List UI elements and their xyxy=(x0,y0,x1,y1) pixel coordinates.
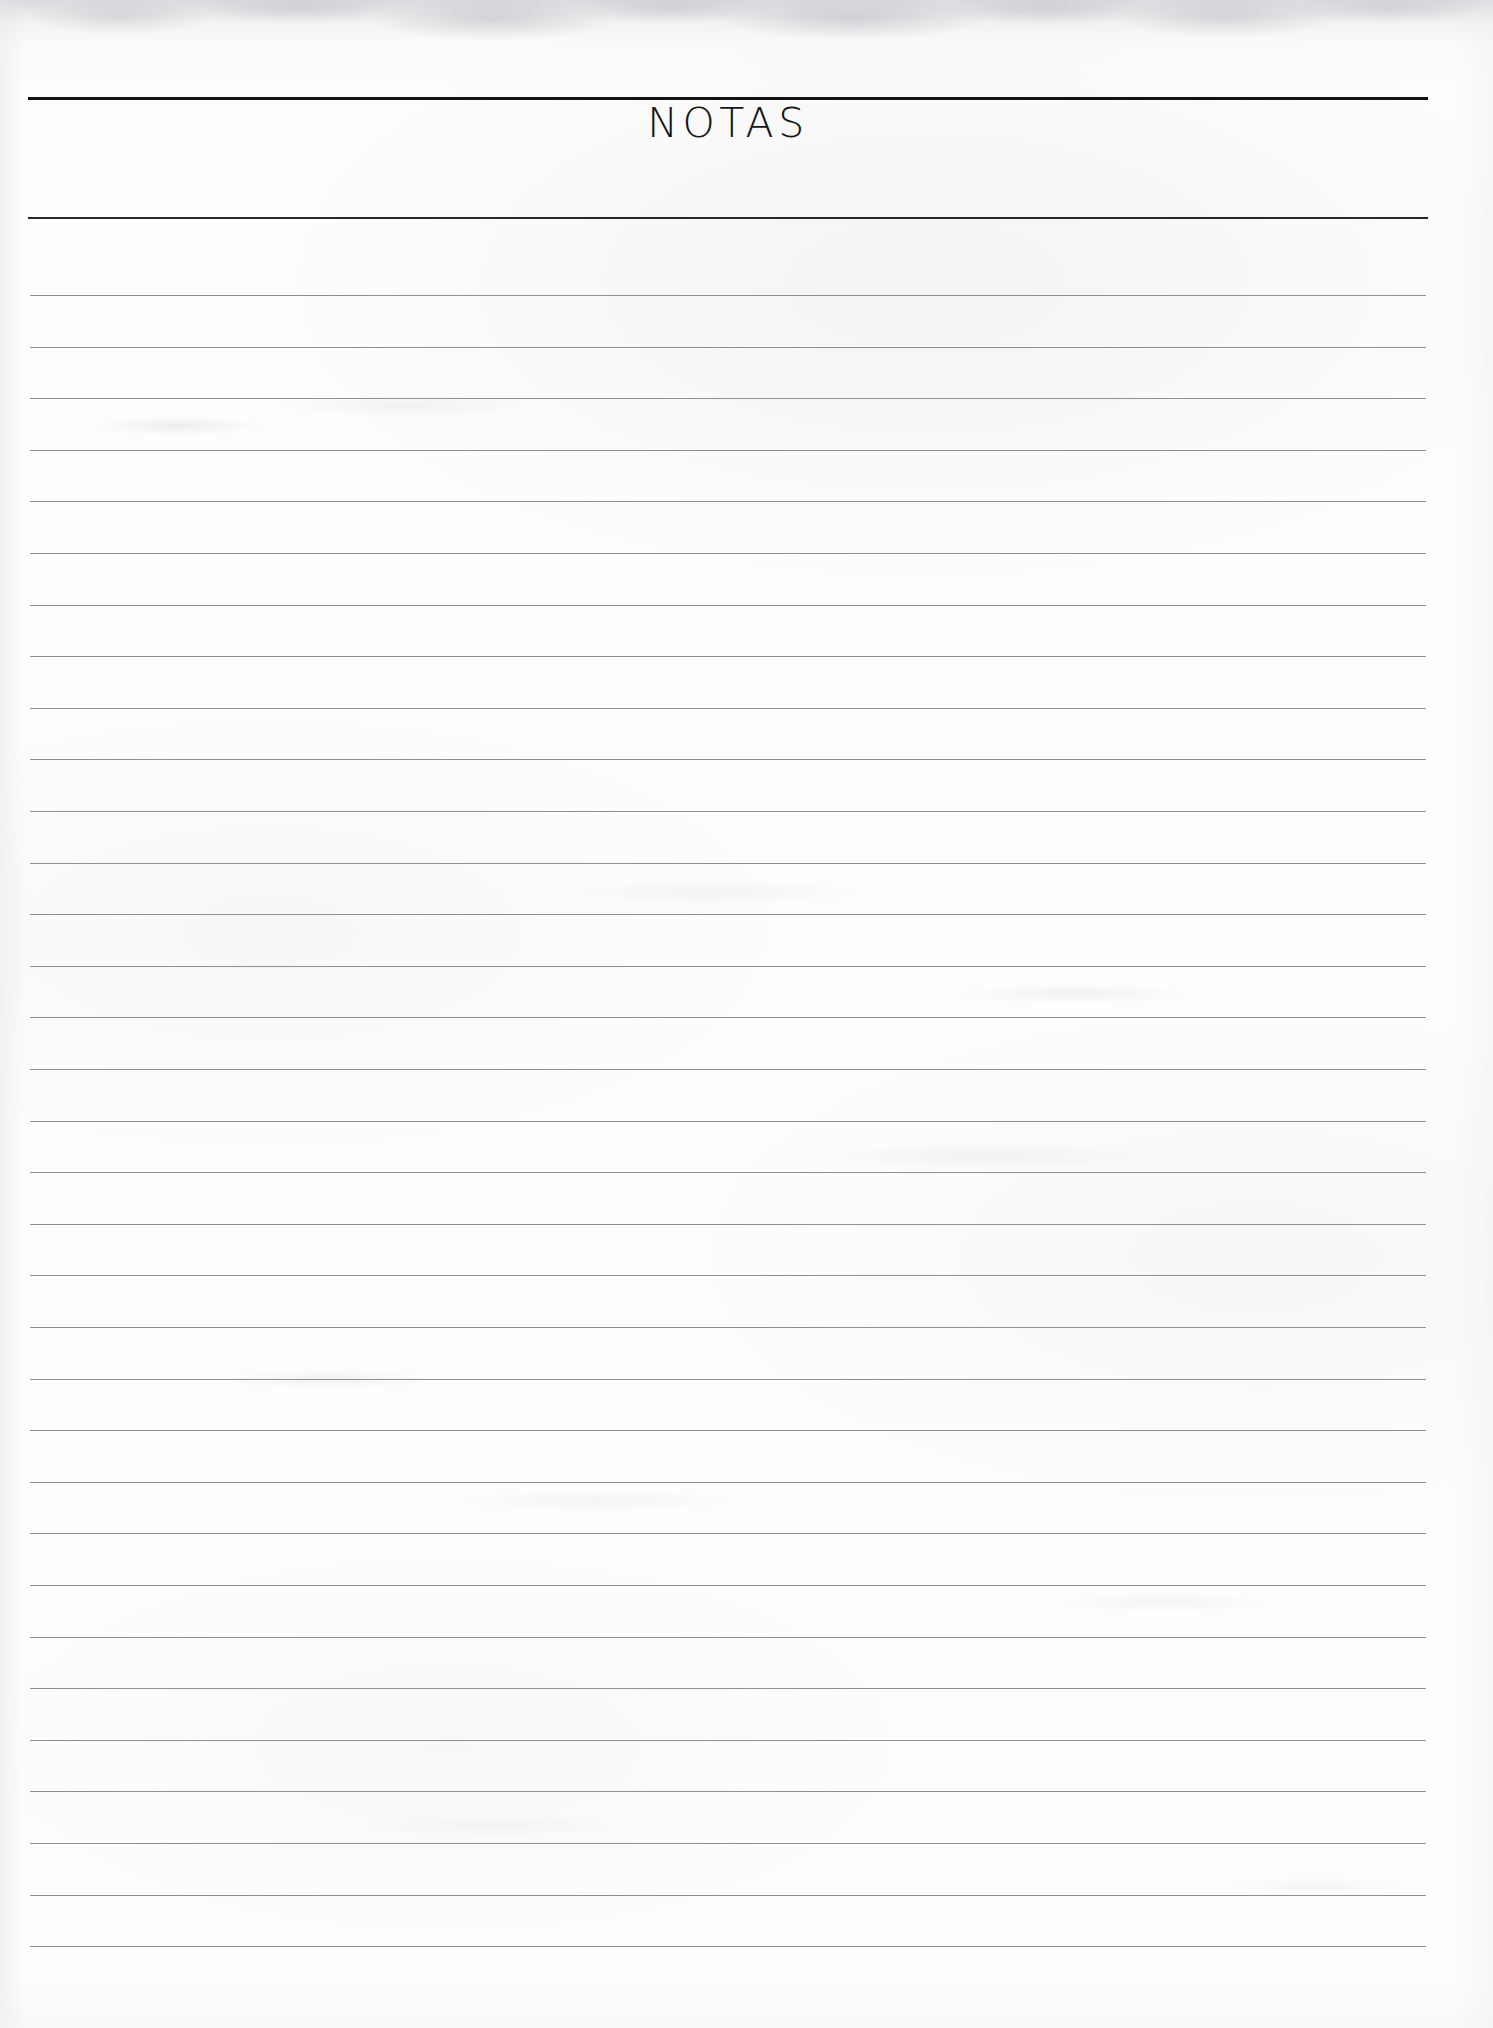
note-rule-line[interactable] xyxy=(30,1121,1426,1122)
note-rule-line[interactable] xyxy=(30,501,1426,502)
note-rule-line[interactable] xyxy=(30,1740,1426,1741)
note-rule-line[interactable] xyxy=(30,347,1426,348)
ruled-lines-area[interactable] xyxy=(0,0,1493,2028)
note-rule-line[interactable] xyxy=(30,1482,1426,1483)
note-rule-line[interactable] xyxy=(30,1069,1426,1070)
note-rule-line[interactable] xyxy=(30,1688,1426,1689)
note-rule-line[interactable] xyxy=(30,398,1426,399)
note-rule-line[interactable] xyxy=(30,1327,1426,1328)
note-rule-line[interactable] xyxy=(30,1379,1426,1380)
note-rule-line[interactable] xyxy=(30,1791,1426,1792)
page-title: NOTAS xyxy=(28,103,1428,144)
note-rule-line[interactable] xyxy=(30,966,1426,967)
notes-page: NOTAS xyxy=(0,0,1493,2028)
note-rule-line[interactable] xyxy=(30,656,1426,657)
note-rule-line[interactable] xyxy=(30,450,1426,451)
note-rule-line[interactable] xyxy=(30,1585,1426,1586)
note-rule-line[interactable] xyxy=(30,553,1426,554)
note-rule-line[interactable] xyxy=(30,1275,1426,1276)
note-rule-line[interactable] xyxy=(30,605,1426,606)
note-rule-line[interactable] xyxy=(30,1224,1426,1225)
header-bottom-rule xyxy=(28,217,1428,219)
paper-texture-speckle xyxy=(0,0,1493,2028)
note-rule-line[interactable] xyxy=(30,1946,1426,1947)
note-rule-line[interactable] xyxy=(30,759,1426,760)
note-rule-line[interactable] xyxy=(30,1430,1426,1431)
note-rule-line[interactable] xyxy=(30,863,1426,864)
note-rule-line[interactable] xyxy=(30,1172,1426,1173)
note-rule-line[interactable] xyxy=(30,1637,1426,1638)
note-rule-line[interactable] xyxy=(30,295,1426,296)
note-rule-line[interactable] xyxy=(30,708,1426,709)
page-edge-vignette xyxy=(0,0,1493,2028)
paper-background xyxy=(0,0,1493,2028)
scan-edge-shading xyxy=(0,0,1493,48)
note-rule-line[interactable] xyxy=(30,1895,1426,1896)
note-rule-line[interactable] xyxy=(30,914,1426,915)
note-rule-line[interactable] xyxy=(30,1843,1426,1844)
note-rule-line[interactable] xyxy=(30,1533,1426,1534)
note-rule-line[interactable] xyxy=(30,1017,1426,1018)
note-rule-line[interactable] xyxy=(30,811,1426,812)
